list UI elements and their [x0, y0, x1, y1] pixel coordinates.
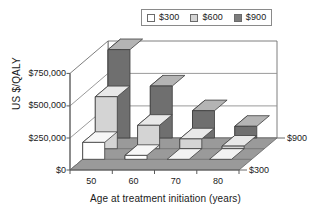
x-tick-80: 80	[205, 177, 231, 186]
x-axis	[70, 170, 239, 174]
chart-figure: $300 $600 $900	[0, 0, 331, 215]
depth-label-300: $300	[249, 166, 269, 175]
x-axis-title: Age at treatment initiation (years)	[0, 193, 331, 204]
depth-label-900: $900	[287, 134, 307, 143]
y-tick-0: $0	[8, 166, 66, 175]
x-tick-70: 70	[163, 177, 189, 186]
y-tick-250000: $250,000	[8, 134, 66, 143]
y-axis	[67, 73, 71, 170]
y-axis-title: US $/QALY	[11, 44, 22, 124]
x-tick-50: 50	[78, 177, 104, 186]
x-tick-60: 60	[121, 177, 147, 186]
